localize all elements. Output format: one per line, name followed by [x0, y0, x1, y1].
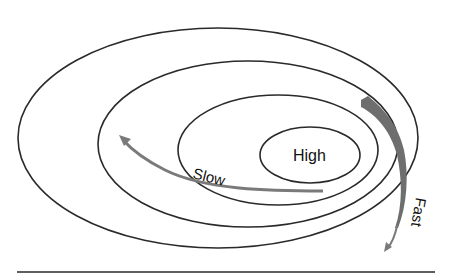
fast-label: Fast	[408, 196, 430, 229]
pressure-flow-diagram: High Slow Fast	[0, 0, 453, 276]
slow-label: Slow	[191, 164, 227, 188]
fast-flow-band	[361, 96, 407, 228]
contour-third	[178, 95, 378, 205]
contour-outer	[18, 28, 418, 248]
center-label: High	[293, 147, 326, 164]
